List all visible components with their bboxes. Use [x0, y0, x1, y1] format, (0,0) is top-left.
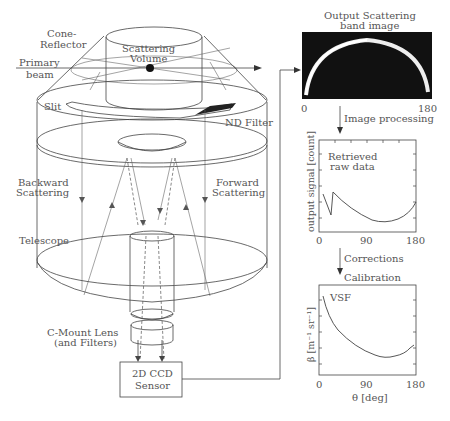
cone-reflector-label-1: Cone- [47, 28, 76, 39]
nd-filter-shape [195, 103, 236, 115]
raw-xtick-90: 90 [360, 235, 373, 246]
cone-reflector-label-2: Reflector [40, 39, 87, 50]
ccd-sensor-label-1: 2D CCD [132, 368, 173, 379]
band-image-title-2: band image [340, 20, 399, 31]
vsf-xtick-90: 90 [360, 379, 373, 390]
band-image [302, 32, 432, 99]
vsf-xtick-180: 180 [406, 379, 425, 390]
corrections-label: Corrections [344, 253, 404, 264]
scattering-volume-label-2: Volume [129, 53, 167, 64]
scattering-volume-dot [146, 64, 154, 72]
raw-xtick-0: 0 [316, 235, 322, 246]
instrument-labels: Cone- Reflector Scattering Volume Primar… [16, 28, 273, 391]
vsf-xlabel: θ [deg] [352, 392, 388, 403]
diagram-canvas: Cone- Reflector Scattering Volume Primar… [0, 0, 450, 421]
nd-filter-label: ND Filter [225, 117, 273, 128]
backward-scattering-label-2: Scattering [16, 187, 70, 198]
telescope-label: Telescope [19, 235, 69, 246]
raw-data-ylabel: output signal [count] [305, 131, 316, 232]
raw-xtick-180: 180 [406, 235, 425, 246]
image-processing-label: Image processing [344, 113, 435, 124]
forward-scattering-label-2: Scattering [212, 187, 266, 198]
vsf-xtick-0: 0 [316, 379, 322, 390]
band-image-xmin: 0 [301, 103, 307, 114]
slit-label: Slit [44, 101, 61, 112]
calibration-label: Calibration [344, 272, 401, 283]
vsf-annotation: VSF [329, 292, 351, 303]
vsf-plot: VSF β [m⁻¹ sr⁻¹] 0 90 180 θ [deg] [305, 285, 425, 403]
primary-beam-label-2: beam [26, 69, 54, 80]
primary-beam-label-1: Primary [19, 57, 60, 68]
raw-data-plot: Retrieved raw data output signal [count]… [305, 131, 425, 283]
vsf-ylabel: β [m⁻¹ sr⁻¹] [305, 307, 316, 362]
c-mount-lens-label-2: (and Filters) [54, 337, 117, 348]
ccd-sensor-label-2: Sensor [135, 380, 170, 391]
raw-data-annotation-2: raw data [330, 161, 375, 172]
band-image-panel: Output Scattering band image 0 180 Image… [301, 10, 437, 134]
